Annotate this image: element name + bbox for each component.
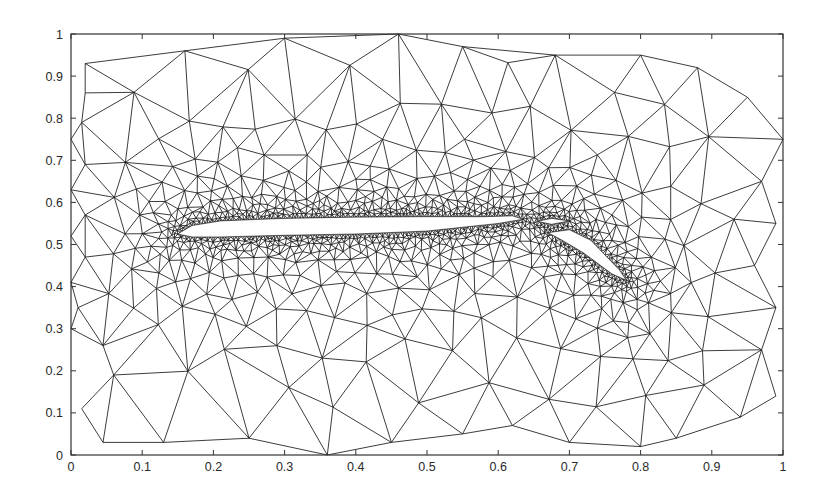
x-tick-label: 0.4 [347,460,364,474]
x-tick-label: 0.8 [632,460,649,474]
y-tick-label: 0.8 [46,112,63,126]
y-tick-label: 0.9 [46,70,63,84]
mesh-edges [71,34,783,455]
x-tick-label: 0.7 [561,460,578,474]
x-tick-label: 0.3 [276,460,293,474]
x-tick-label: 0.2 [205,460,222,474]
x-tick-label: 0.6 [490,460,507,474]
mesh-plot: 00.10.20.30.40.50.60.70.80.91 00.10.20.3… [0,0,823,498]
main-airfoil-element [178,216,523,237]
x-tick-label: 0 [68,460,75,474]
y-tick-label: 1 [56,28,63,42]
y-tick-label: 0.6 [46,196,63,210]
triangular-mesh [71,34,783,455]
y-tick-label: 0.7 [46,154,63,168]
y-tick-label: 0.2 [46,364,63,378]
x-tick-label: 0.9 [703,460,720,474]
y-tick-label: 0.4 [46,280,63,294]
y-tick-label: 0.5 [46,238,63,252]
y-tick-label: 0.3 [46,322,63,336]
y-tick-label: 0.1 [46,406,63,420]
x-tick-label: 0.5 [418,460,435,474]
x-tick-label: 1 [780,460,787,474]
x-tick-label: 0.1 [134,460,151,474]
y-tick-label: 0 [56,449,63,463]
